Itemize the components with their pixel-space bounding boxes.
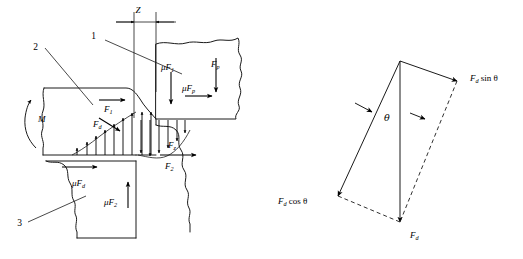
label-mu-fp-sub: p [191,87,195,94]
svg-text:μF1: μF1 [160,62,174,73]
force-label-mu-f2: μF2 [103,197,117,208]
force-label-mu-fp: μFp [181,83,195,94]
vector-fd-mid-tick [410,113,425,119]
z-dimension-label: Z [135,5,141,15]
label-fd-sub: d [99,123,103,130]
vector-fd-sin-theta [400,61,457,81]
tool-lower-block [46,161,136,238]
moment-label: M [37,114,46,124]
label-mu-fd-base: μF [71,178,83,188]
vector-left-mid-tick [355,103,372,112]
callout-3: 3 [17,218,22,228]
force-label-fz: Fz [167,140,177,151]
label-f2-sub: 2 [171,165,174,172]
callout-2: 2 [33,42,38,52]
force-label-f2: F2 [164,161,174,172]
label-f1-sub: 1 [110,108,113,115]
label-mu-f2-base: μF [103,197,115,207]
label-fz-sub: z [173,144,177,151]
label-fd-cos-theta: Fd cos θ [277,196,307,207]
label-mu-fp-base: μF [181,83,193,93]
svg-text:μF2: μF2 [103,197,117,208]
workpiece-lower-body [156,119,190,232]
angle-theta-label: θ [384,112,390,123]
label-mu-f1-sub: 1 [171,66,174,73]
label-fd-res-sub: d [416,234,420,241]
svg-text:Fd sin θ: Fd sin θ [469,73,498,84]
svg-text:Fd cos θ: Fd cos θ [277,196,307,207]
svg-text:μFd: μFd [71,178,86,189]
z-dimension-reference-lines [134,12,156,118]
force-label-mu-f1: μF1 [160,62,174,73]
label-fp-top-sub: p [216,63,220,70]
figure-root: Z [0,0,523,259]
force-label-fd: Fd [92,119,103,130]
label-fd-sin-theta: Fd sin θ [469,73,498,84]
force-label-f1: F1 [103,104,113,115]
technical-figure: Z [0,0,523,259]
svg-text:F1: F1 [103,104,113,115]
label-mu-f2-sub: 2 [114,201,117,208]
left-diagram-group: Z [17,5,242,238]
label-mu-fd-sub: d [82,182,86,189]
workpiece-upper-body [156,38,242,119]
svg-text:Fd: Fd [409,230,420,241]
label-mu-f1-base: μF [160,62,172,72]
svg-text:Fd: Fd [92,119,103,130]
vector-fd-cos-theta [338,61,400,196]
svg-text:F2: F2 [164,161,174,172]
force-label-mu-fd: μFd [71,178,86,189]
force-label-fp-top: Fp [210,59,220,70]
svg-text:μFp: μFp [181,83,195,94]
label-fd-resultant: Fd [409,230,420,241]
right-diagram-group: θ Fd sin θ Fd cos θ Fd [277,61,498,241]
callout-1: 1 [91,31,96,41]
dashed-side-bottom [338,196,400,222]
moment-arrow [25,100,36,148]
dashed-side-right [400,81,457,222]
label-fdcos-suffix: cos θ [287,196,308,206]
shear-zone-envelope [72,112,136,155]
tool-upper-block [42,88,156,155]
label-fdsin-suffix: sin θ [479,73,498,83]
distributed-load-upward [77,112,151,155]
svg-text:Fp: Fp [210,59,220,70]
svg-text:Fz: Fz [167,140,177,151]
